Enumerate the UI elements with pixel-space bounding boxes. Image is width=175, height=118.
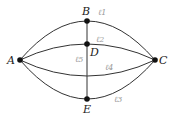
edge-label-l3: ℓ3 <box>114 95 122 104</box>
node-label-A: A <box>6 54 15 67</box>
node-label-B: B <box>81 5 90 18</box>
node-label-C: C <box>159 54 168 67</box>
node-B <box>84 18 90 24</box>
edge-label-l1: ℓ1 <box>98 8 106 17</box>
graph-diagram: A B C D E ℓ1 ℓ2 ℓ3 ℓ4 ℓ5 <box>0 0 175 118</box>
edge-label-l5: ℓ5 <box>75 55 83 64</box>
node-A <box>17 57 23 63</box>
edge-label-l4: ℓ4 <box>105 63 113 72</box>
node-D <box>84 41 90 47</box>
node-E <box>84 96 90 102</box>
node-label-D: D <box>89 46 99 59</box>
node-C <box>152 57 158 63</box>
edge-label-l2: ℓ2 <box>96 35 104 44</box>
node-label-E: E <box>82 103 91 116</box>
